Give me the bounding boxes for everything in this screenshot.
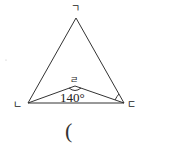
triangle-diagram: ㄱ ㄴ ㄷ ㄹ 140° [0,0,196,149]
stray-dot [5,59,6,60]
angle-label: 140° [60,90,85,105]
vertex-label-left: ㄴ [13,99,22,110]
angle-arc-right [115,94,119,100]
vertex-label-apex: ㄱ [71,3,80,14]
answer-parenthesis: ( [65,120,72,142]
vertex-label-right: ㄷ [127,99,136,110]
vertex-label-inner: ㄹ [70,75,78,85]
